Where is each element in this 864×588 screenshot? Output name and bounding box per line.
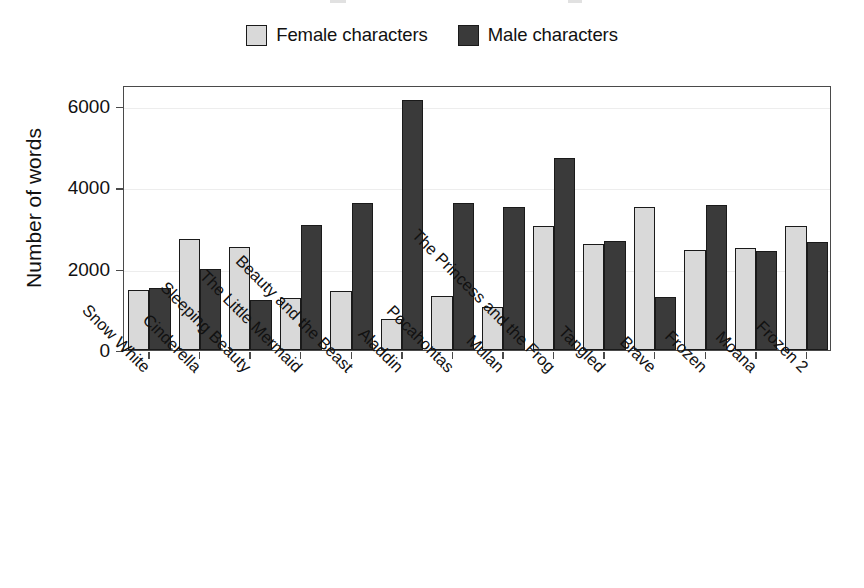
y-tick-label-2000: 2000 [40, 259, 110, 281]
legend-entry-female: Female characters [246, 24, 428, 46]
legend-swatch-male-icon [458, 25, 479, 46]
y-tick-mark-6000 [116, 107, 123, 108]
y-tick-label-6000: 6000 [40, 96, 110, 118]
legend-swatch-female-icon [246, 25, 267, 46]
bar-female [735, 248, 756, 350]
chart-page: { "chart_data": { "type": "bar", "title"… [0, 0, 864, 588]
bar-male [807, 242, 828, 350]
bar-female [533, 226, 554, 350]
gridline-4000 [124, 189, 830, 190]
legend-label-female: Female characters [276, 24, 428, 46]
bar-male [604, 241, 625, 350]
y-tick-mark-4000 [116, 188, 123, 189]
legend-entry-male: Male characters [458, 24, 618, 46]
scan-artifact-left [330, 0, 346, 3]
y-tick-mark-2000 [116, 270, 123, 271]
y-tick-label-4000: 4000 [40, 177, 110, 199]
bar-male [554, 158, 575, 350]
chart-legend: Female characters Male characters [0, 24, 864, 46]
y-tick-label-0: 0 [40, 340, 110, 362]
legend-label-male: Male characters [488, 24, 618, 46]
bar-female [684, 250, 705, 350]
bar-female [785, 226, 806, 350]
bar-female [583, 244, 604, 351]
gridline-6000 [124, 108, 830, 109]
scan-artifact-right [568, 0, 582, 3]
bar-female [634, 207, 655, 350]
